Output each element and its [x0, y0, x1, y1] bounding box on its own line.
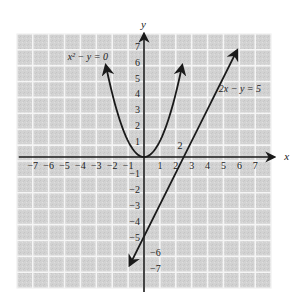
y-tick-label: −7 — [150, 263, 161, 274]
annotation: 2 — [177, 140, 182, 151]
x-tick-label: 7 — [253, 160, 258, 171]
y-tick-label: −1 — [129, 168, 140, 179]
parabola-label: x² − y = 0 — [67, 51, 108, 62]
x-tick-label: 4 — [205, 160, 210, 171]
x-tick-label: 3 — [189, 160, 194, 171]
x-tick-label: −7 — [27, 160, 38, 171]
y-tick-label: −3 — [129, 200, 140, 211]
x-tick-label: 1 — [157, 160, 162, 171]
line-label: 2x − y = 5 — [219, 83, 261, 94]
x-tick-label: 5 — [221, 160, 226, 171]
y-tick-label: 5 — [135, 73, 140, 84]
x-tick-label: −5 — [59, 160, 70, 171]
y-tick-label: 3 — [135, 104, 140, 115]
x-tick-label: 2 — [173, 160, 178, 171]
x-tick-label: −6 — [43, 160, 54, 171]
x-tick-label: 6 — [237, 160, 242, 171]
y-tick-label: 1 — [135, 136, 140, 147]
y-axis-label: y — [140, 18, 146, 30]
y-tick-label: −5 — [129, 232, 140, 243]
y-tick-label: 7 — [135, 41, 140, 52]
y-tick-label: −4 — [129, 216, 140, 227]
y-tick-label: 6 — [135, 57, 140, 68]
y-tick-label: 2 — [135, 120, 140, 131]
x-tick-label: −2 — [107, 160, 118, 171]
y-tick-label: −6 — [150, 247, 161, 258]
x-axis-label: x — [283, 150, 289, 162]
graph: xy−7−6−5−4−3−2−112345677654321−1−2−3−4−5… — [0, 0, 301, 292]
y-tick-label: 4 — [135, 88, 140, 99]
x-tick-label: −4 — [75, 160, 86, 171]
x-tick-label: −3 — [91, 160, 102, 171]
y-tick-label: −2 — [129, 184, 140, 195]
